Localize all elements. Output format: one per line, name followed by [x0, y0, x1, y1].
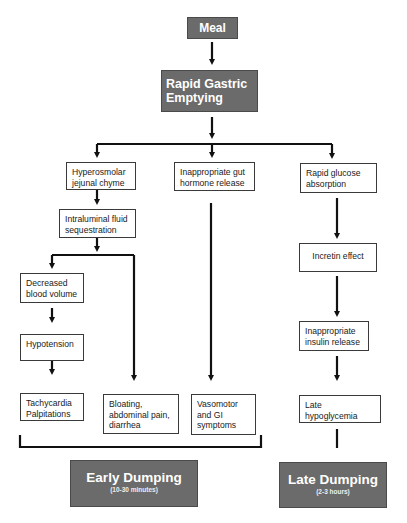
decreased-blood-volume-box: Decreased blood volume [20, 273, 84, 303]
incretin-box: Incretin effect [299, 243, 377, 272]
vasomotor-label: Vasomotor and GI symptoms [197, 399, 238, 430]
meal-label: Meal [188, 18, 237, 38]
hypotension-box: Hypotension [20, 334, 84, 361]
glucose-absorption-label: Rapid glucose absorption [306, 168, 360, 189]
bloating-box: Bloating, abdominal pain, diarrhea [103, 394, 179, 434]
fluid-sequestration-label: Intraluminal fluid sequestration [65, 214, 128, 235]
late-hypoglycemia-label: Late hypoglycemia [305, 400, 358, 421]
tachycardia-label: Tachycardia Palpitations [26, 398, 72, 419]
insulin-release-box: Inappropriate insulin release [299, 321, 369, 351]
late-dumping-subtitle: (2-3 hours) [280, 488, 386, 496]
bloating-label: Bloating, abdominal pain, diarrhea [109, 399, 170, 430]
fluid-sequestration-box: Intraluminal fluid sequestration [59, 209, 136, 238]
hypotension-label: Hypotension [26, 339, 74, 349]
late-dumping-title: Late Dumping [280, 472, 386, 488]
tachycardia-box: Tachycardia Palpitations [20, 393, 84, 421]
rapid-gastric-emptying-label: Rapid Gastric Emptying [166, 77, 253, 105]
late-hypoglycemia-box: Late hypoglycemia [299, 395, 381, 423]
gut-hormone-box: Inappropriate gut hormone release [174, 162, 255, 191]
glucose-absorption-box: Rapid glucose absorption [300, 163, 377, 193]
gut-hormone-label: Inappropriate gut hormone release [180, 167, 245, 188]
vasomotor-box: Vasomotor and GI symptoms [191, 394, 256, 435]
early-dumping-subtitle: (10-30 minutes) [71, 486, 197, 494]
incretin-label: Incretin effect [312, 251, 363, 261]
hyperosmolar-label: Hyperosmolar jejunal chyme [72, 167, 126, 188]
rapid-gastric-emptying-box: Rapid Gastric Emptying [161, 70, 258, 112]
decreased-blood-volume-label: Decreased blood volume [26, 278, 77, 299]
late-dumping-box: Late Dumping (2-3 hours) [279, 462, 387, 508]
early-dumping-box: Early Dumping (10-30 minutes) [70, 460, 198, 507]
hyperosmolar-box: Hyperosmolar jejunal chyme [66, 162, 136, 190]
insulin-release-label: Inappropriate insulin release [305, 326, 360, 347]
early-dumping-title: Early Dumping [71, 470, 197, 486]
meal-box: Meal [187, 17, 238, 39]
